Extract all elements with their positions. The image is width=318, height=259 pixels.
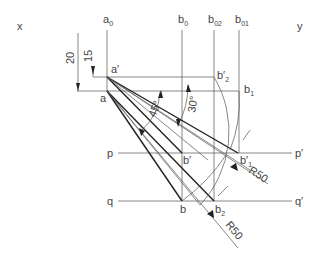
r50-lower-label: R50 bbox=[223, 219, 245, 242]
angle-30-arrow-top bbox=[186, 84, 191, 92]
dim-15-arrow bbox=[91, 66, 95, 75]
p-prime-label: p′ bbox=[295, 147, 303, 159]
construction-line-2 bbox=[107, 77, 208, 160]
y-axis-label: y bbox=[297, 20, 303, 32]
x-axis-label: x bbox=[17, 20, 23, 32]
dim-20-label: 20 bbox=[64, 52, 76, 64]
angle-45-label: 45° bbox=[146, 99, 163, 119]
b0-label: b0 bbox=[178, 13, 188, 27]
r50-upper-arrow bbox=[230, 163, 238, 171]
b1-label: b1 bbox=[244, 83, 254, 97]
r50-lower-arrow bbox=[207, 210, 214, 218]
b1-prime-label: b′1 bbox=[240, 154, 252, 168]
a-prime-label: a′ bbox=[111, 63, 119, 75]
arc-b1 bbox=[230, 91, 239, 150]
a-label: a bbox=[100, 92, 107, 104]
tick-b2 bbox=[218, 186, 228, 196]
arc-b2-prime bbox=[200, 77, 229, 205]
line-a-prime-b-prime bbox=[107, 77, 182, 153]
angle-30-label: 30° bbox=[185, 95, 200, 113]
tick-b1-prime bbox=[243, 130, 250, 140]
b01-label: b01 bbox=[235, 13, 249, 27]
q-label: q bbox=[107, 195, 113, 207]
projection-diagram: x y a0 b0 b02 b01 20 15 45° 30° R50 bbox=[0, 0, 318, 259]
b02-label: b02 bbox=[208, 13, 222, 27]
q-prime-label: q′ bbox=[295, 195, 303, 207]
b2-label: b2 bbox=[215, 203, 225, 217]
b2-prime-label: b′2 bbox=[217, 69, 229, 83]
b-prime-label: b′ bbox=[183, 154, 191, 166]
b-label: b bbox=[180, 203, 186, 215]
dim-15-label: 15 bbox=[82, 50, 94, 62]
dim-20-arrow bbox=[76, 83, 80, 91]
a0-label: a0 bbox=[103, 13, 113, 27]
p-label: p bbox=[107, 147, 113, 159]
